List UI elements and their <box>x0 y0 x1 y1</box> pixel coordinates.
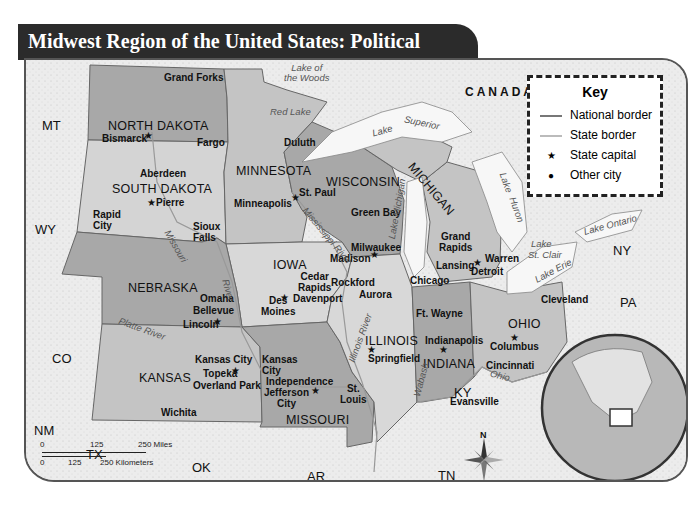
city-kansas-city-mo: KansasCity <box>262 354 298 376</box>
label-indiana: INDIANA <box>423 357 475 371</box>
label-red-lake: Red Lake <box>270 106 311 117</box>
scale-mile-0: 0 <box>40 440 44 449</box>
scale-mile-250: 250 Miles <box>138 440 172 449</box>
star-icon: ★ <box>213 316 222 327</box>
label-lake-st-clair-1: Lake <box>531 238 552 249</box>
label-nebraska: NEBRASKA <box>128 281 198 295</box>
map-title: Midwest Region of the United States: Pol… <box>28 30 420 53</box>
city-wichita: Wichita <box>161 407 196 418</box>
locator-box <box>610 409 632 426</box>
key-item-national-border: National border <box>538 108 652 122</box>
star-icon: ★ <box>144 130 153 141</box>
star-icon: ★ <box>510 332 519 343</box>
city-independence: Independence <box>266 376 333 387</box>
city-bellevue: Bellevue <box>193 305 234 316</box>
city-grand-rapids: GrandRapids <box>439 231 472 253</box>
star-icon: ★ <box>291 192 300 203</box>
label-iowa: IOWA <box>273 258 307 272</box>
national-border-line-icon <box>540 115 562 117</box>
label-wy: WY <box>35 222 56 237</box>
city-chicago: Chicago <box>410 275 449 286</box>
key-item-state-capital: ★ State capital <box>538 148 636 162</box>
key-title: Key <box>530 84 660 100</box>
star-icon: ★ <box>280 292 289 303</box>
city-ft-wayne: Ft. Wayne <box>416 308 463 319</box>
city-cedar-rapids: CedarRapids <box>298 271 331 293</box>
state-border-line-icon <box>540 135 562 137</box>
compass-north-label: N <box>480 430 487 440</box>
star-icon: ★ <box>473 257 482 268</box>
label-lake-st-clair-2: St. Clair <box>528 249 562 260</box>
label-minnesota: MINNESOTA <box>236 164 311 178</box>
city-overland-park: Overland Park <box>193 380 261 391</box>
label-wisconsin: WISCONSIN <box>326 175 400 189</box>
label-tn: TN <box>438 468 455 482</box>
star-icon: ★ <box>538 150 564 161</box>
capital-des-moines: DesMoines <box>261 295 295 317</box>
city-cleveland: Cleveland <box>541 294 588 305</box>
label-pa: PA <box>620 295 636 310</box>
scale-km-250: 250 Kilometers <box>100 458 153 467</box>
star-icon: ★ <box>370 249 379 260</box>
city-aurora: Aurora <box>359 289 392 300</box>
scale-bar-miles <box>42 452 146 453</box>
city-kansas-city-ks: Kansas City <box>195 354 252 365</box>
label-mt: MT <box>42 118 61 133</box>
label-ar: AR <box>307 469 325 482</box>
city-minneapolis: Minneapolis <box>234 198 292 209</box>
label-south-dakota: SOUTH DAKOTA <box>112 182 212 196</box>
capital-bismarck: Bismarck <box>102 133 147 144</box>
city-duluth: Duluth <box>284 137 316 148</box>
capital-pierre: Pierre <box>156 197 184 208</box>
label-canada: CANADA <box>465 85 535 99</box>
star-icon: ★ <box>439 344 448 355</box>
capital-indianapolis: Indianapolis <box>425 335 483 346</box>
city-sioux-falls: SiouxFalls <box>193 221 220 243</box>
scale-km-0: 0 <box>40 458 44 467</box>
star-icon: ★ <box>367 344 376 355</box>
map-key: Key National border State border ★ State… <box>527 75 663 197</box>
label-lake-of-the-woods: Lake ofthe Woods <box>284 63 329 83</box>
label-kansas: KANSAS <box>139 371 191 385</box>
star-icon: ★ <box>147 197 156 208</box>
city-st-louis: St.Louis <box>340 383 367 405</box>
scale-mile-125: 125 <box>90 440 103 449</box>
key-item-state-border: State border <box>538 128 636 142</box>
label-north-dakota: NORTH DAKOTA <box>108 119 209 133</box>
scale-km-125: 125 <box>68 458 81 467</box>
capital-st-paul: St. Paul <box>299 187 336 198</box>
label-ny: NY <box>613 243 631 258</box>
dot-icon: ● <box>538 170 564 181</box>
city-grand-forks: Grand Forks <box>164 72 223 83</box>
scale-bar-km <box>42 456 106 457</box>
city-aberdeen: Aberdeen <box>140 168 186 179</box>
capital-jefferson-city: JeffersonCity <box>264 387 309 409</box>
star-icon: ★ <box>231 365 240 376</box>
label-missouri: MISSOURI <box>286 413 349 427</box>
city-davenport: Davenport <box>293 293 342 304</box>
label-nm: NM <box>34 423 54 438</box>
city-fargo: Fargo <box>197 137 225 148</box>
star-icon: ★ <box>311 385 320 396</box>
label-ohio: OHIO <box>508 317 541 331</box>
city-rapid-city: RapidCity <box>93 209 121 231</box>
city-rockford: Rockford <box>331 277 375 288</box>
label-co: CO <box>52 351 72 366</box>
city-evansville: Evansville <box>450 396 499 407</box>
city-warren: Warren <box>485 253 519 264</box>
capital-lansing: Lansing <box>436 260 474 271</box>
key-item-other-city: ● Other city <box>538 168 621 182</box>
label-ok: OK <box>192 460 211 475</box>
